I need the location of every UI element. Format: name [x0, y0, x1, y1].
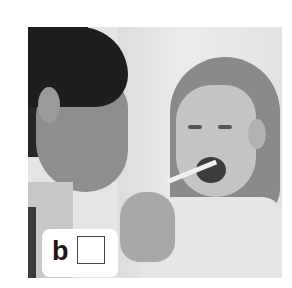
girl-ear	[248, 119, 266, 149]
answer-checkbox[interactable]	[77, 236, 105, 264]
girl-eye-left	[188, 125, 202, 129]
woman-ear	[38, 87, 60, 123]
woman-body-edge	[28, 207, 36, 278]
option-label: b	[52, 236, 69, 266]
woman-hand	[120, 192, 175, 262]
girl-eye-right	[218, 125, 232, 129]
